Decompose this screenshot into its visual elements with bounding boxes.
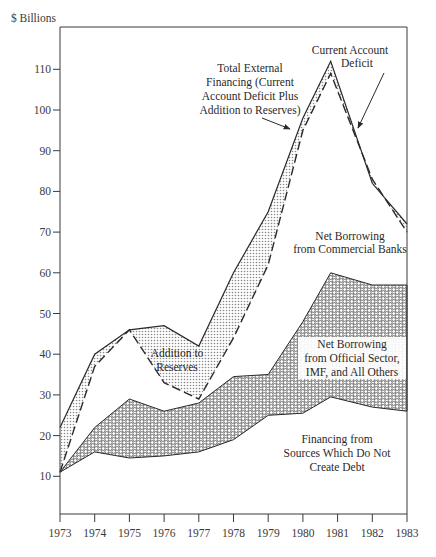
y-tick-label: 10 [40, 470, 52, 482]
y-tick-label: 20 [40, 430, 52, 442]
y-tick-label: 30 [40, 389, 52, 401]
svg-text:Financing from: Financing from [301, 433, 372, 446]
annotation-total-external-financing: Total External Financing (Current Accoun… [200, 62, 301, 129]
x-tick-label: 1977 [187, 527, 210, 539]
svg-text:Addition to: Addition to [151, 347, 204, 359]
svg-text:Addition to Reserves): Addition to Reserves) [200, 104, 301, 117]
y-tick-label: 100 [34, 104, 52, 116]
x-tick-label: 1976 [153, 527, 176, 539]
svg-text:from Official Sector,: from Official Sector, [304, 352, 400, 365]
svg-text:Account Deficit Plus: Account Deficit Plus [202, 90, 299, 102]
chart-areas [60, 61, 407, 472]
y-tick-label: 70 [40, 226, 52, 238]
annotation-official-sector: Net Borrowing from Official Sector, IMF,… [298, 337, 406, 379]
x-tick-label: 1979 [257, 527, 280, 539]
x-tick-label: 1982 [361, 527, 384, 539]
x-tick-label: 1973 [49, 527, 72, 539]
y-tick-label: 40 [40, 348, 52, 360]
svg-text:Financing (Current: Financing (Current [206, 76, 295, 89]
svg-text:IMF, and All Others: IMF, and All Others [306, 366, 399, 379]
arrow-icon [262, 118, 290, 129]
annotation-commercial-banks: Net Borrowing from Commercial Banks [293, 230, 407, 255]
svg-text:Current Account: Current Account [312, 44, 389, 56]
y-tick-label: 90 [40, 145, 52, 157]
x-tick-label: 1980 [291, 527, 314, 539]
y-axis-ticks: 102030405060708090100110 [34, 63, 60, 482]
y-axis-label: $ Billions [11, 12, 57, 24]
svg-text:from Commercial Banks: from Commercial Banks [293, 243, 407, 255]
svg-text:Deficit: Deficit [341, 57, 374, 69]
x-tick-label: 1981 [326, 527, 349, 539]
y-tick-label: 60 [40, 267, 52, 279]
arrow-icon [358, 73, 384, 128]
y-tick-label: 110 [34, 63, 51, 75]
x-tick-label: 1978 [222, 527, 245, 539]
x-tick-label: 1975 [118, 527, 141, 539]
svg-text:Net Borrowing: Net Borrowing [315, 230, 385, 243]
svg-text:Sources Which Do Not: Sources Which Do Not [284, 447, 392, 459]
svg-text:Total External: Total External [217, 62, 282, 74]
y-tick-label: 50 [40, 308, 52, 320]
x-tick-label: 1983 [396, 527, 419, 539]
svg-text:Create Debt: Create Debt [309, 461, 365, 473]
x-tick-label: 1974 [83, 527, 106, 539]
x-axis-ticks: 1973197419751976197719781979198019811982… [49, 514, 419, 539]
chart-canvas: 102030405060708090100110 197319741975197… [0, 0, 436, 557]
y-tick-label: 80 [40, 185, 52, 197]
svg-text:Net Borrowing: Net Borrowing [317, 338, 387, 351]
svg-text:Reserves: Reserves [156, 361, 198, 373]
annotation-non-debt-financing: Financing from Sources Which Do Not Crea… [284, 433, 392, 473]
